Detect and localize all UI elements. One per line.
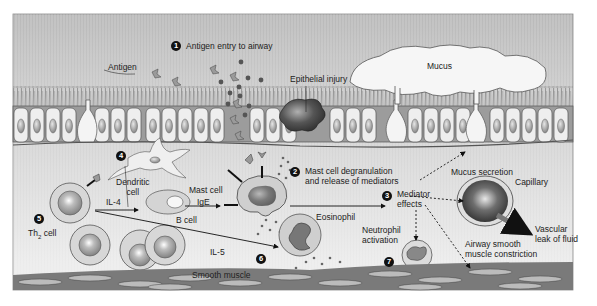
vascular-leak-label: Vascular leak of fluid [535, 225, 578, 244]
smooth-muscle-label: Smooth muscle [192, 271, 251, 281]
th2-cell-label-suffix: cell [41, 228, 56, 238]
asthma-diagram: 1 2 3 4 5 6 7 Antigen entry to airway An… [0, 0, 597, 306]
step-2-label-line2: and release of mediators [305, 177, 399, 187]
step-3-label: Mediator effects [397, 190, 430, 209]
step-marker-2: 2 [290, 167, 300, 177]
step-marker-6: 6 [256, 254, 266, 264]
mucus-label: Mucus [427, 62, 452, 72]
b-cell [146, 190, 190, 214]
eosinophil-label: Eosinophil [316, 213, 355, 223]
il4-label: IL-4 [106, 198, 121, 208]
neutrophil-activation-label: Neutrophil activation [362, 226, 401, 245]
step-marker-4: 4 [116, 151, 126, 161]
dendritic-cell-label-line2: cell [116, 188, 150, 198]
th2-cell-label: Th2 cell [28, 229, 56, 242]
ige-label: IgE [197, 198, 210, 208]
vascular-leak-label-line2: leak of fluid [535, 235, 578, 245]
th2-cell-label-main: Th [28, 228, 38, 238]
il5-label: IL-5 [210, 248, 225, 258]
epithelial-injury-label: Epithelial injury [290, 75, 347, 85]
mast-cell-label: Mast cell [189, 186, 223, 196]
antigen-label: Antigen [108, 63, 137, 73]
step-1-label: Antigen entry to airway [186, 42, 272, 52]
capillary-label: Capillary [515, 178, 548, 188]
b-cell-label: B cell [176, 216, 197, 226]
airway-constriction-label-line2: muscle constriction [465, 250, 537, 260]
airway-constriction-label: Airway smooth muscle constriction [465, 240, 537, 259]
step-3-label-line2: effects [397, 200, 430, 210]
step-marker-5: 5 [34, 214, 44, 224]
diagram-canvas [0, 0, 597, 306]
step-marker-3: 3 [382, 191, 392, 201]
mucus-secretion-label: Mucus secretion [451, 168, 513, 178]
eosinophil [279, 214, 321, 256]
step-2-label: Mast cell degranulation and release of m… [305, 167, 399, 186]
neutrophil-activation-label-line2: activation [362, 236, 401, 246]
step-marker-1: 1 [171, 41, 181, 51]
step-marker-7: 7 [384, 257, 394, 267]
dendritic-cell-label: Dendritic cell [116, 178, 150, 197]
